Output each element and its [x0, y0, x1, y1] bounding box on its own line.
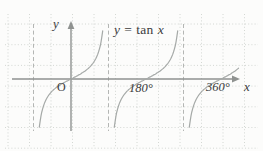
equation-arg: x — [158, 22, 164, 37]
equation-lhs: y — [114, 22, 120, 37]
origin-label: O — [57, 81, 66, 93]
equation-equals: = — [124, 22, 132, 37]
tick-label-360: 360° — [206, 81, 230, 94]
equation-label: y=tanx — [114, 23, 164, 37]
tan-graph-figure: y=tanx y x O 180° 360° — [0, 0, 263, 151]
y-axis-label: y — [53, 17, 59, 30]
x-axis-label: x — [244, 80, 250, 93]
tick-label-180: 180° — [129, 82, 153, 95]
asymptote-lines — [34, 24, 184, 131]
axes — [12, 21, 240, 131]
equation-func: tan — [136, 22, 153, 37]
